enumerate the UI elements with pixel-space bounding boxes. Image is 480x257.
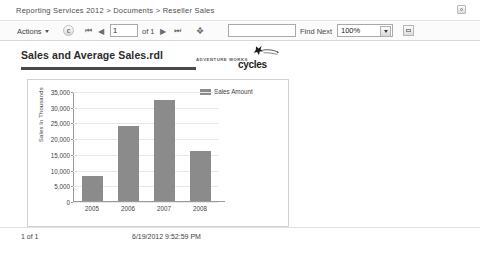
breadcrumb-bar: Reporting Services 2012 > Documents > Re… (0, 0, 480, 20)
y-tick-label: 10,000 (51, 167, 70, 174)
chevron-down-icon[interactable] (380, 26, 391, 37)
y-tick-mark (71, 108, 73, 109)
y-tick-label: 20,000 (51, 136, 70, 143)
previous-page-icon[interactable]: ◀ (97, 21, 105, 41)
y-tick-mark (71, 123, 73, 124)
footer-timestamp: 6/19/2012 9:52:59 PM (132, 233, 201, 240)
report-viewer-body: Sales and Average Sales.rdl ADVENTURE WO… (0, 41, 480, 257)
y-tick-label: 15,000 (51, 151, 70, 158)
adventure-works-logo: ADVENTURE WORKS cycles (196, 45, 286, 71)
find-next-button[interactable]: Find Next (300, 21, 332, 41)
y-tick-label: 0 (66, 199, 70, 206)
help-icon[interactable] (457, 5, 466, 14)
report-toolbar: Actions ⏮ ◀ of 1 ▶ ⏭ ❖ Find Next 100% (0, 20, 480, 41)
chart-x-tick-labels: 2005200620072008 (74, 205, 218, 212)
refresh-icon[interactable] (63, 25, 74, 36)
y-tick-mark (71, 155, 73, 156)
y-tick-label: 30,000 (51, 104, 70, 111)
export-icon[interactable]: ❖ (195, 21, 205, 41)
chevron-down-icon (45, 30, 49, 33)
x-tick-label: 2006 (110, 205, 146, 212)
next-page-icon[interactable]: ▶ (159, 21, 167, 41)
y-tick-label: 25,000 (51, 120, 70, 127)
zoom-select[interactable]: 100% (337, 24, 393, 37)
logo-brand-main: cycles (238, 59, 267, 70)
sales-chart-panel: Sales In Thousands Sales Amount 05,00010… (27, 79, 289, 227)
page-title: Sales and Average Sales.rdl (21, 49, 163, 61)
actions-menu-label: Actions (17, 27, 42, 36)
cyclist-logo-icon (242, 44, 282, 60)
page-count-label: of 1 (142, 21, 155, 41)
x-tick-label: 2007 (146, 205, 182, 212)
find-input[interactable] (228, 24, 296, 37)
zoom-value: 100% (341, 26, 360, 35)
bar-slot (110, 92, 146, 201)
chart-bars (74, 92, 218, 201)
y-tick-mark (71, 139, 73, 140)
legend-label: Sales Amount (214, 88, 253, 95)
y-tick-mark (71, 186, 73, 187)
y-tick-mark (71, 92, 73, 93)
footer-divider (0, 227, 480, 228)
breadcrumb[interactable]: Reporting Services 2012 > Documents > Re… (16, 6, 215, 15)
bar-slot (146, 92, 182, 201)
actions-menu-button[interactable]: Actions (17, 21, 49, 41)
print-icon[interactable] (403, 25, 414, 36)
title-divider (21, 67, 196, 70)
y-tick-label: 5,000 (54, 183, 70, 190)
chart-bar[interactable] (190, 151, 211, 201)
y-tick-label: 35,000 (51, 89, 70, 96)
footer-page-indicator: 1 of 1 (21, 233, 39, 240)
chart-bar[interactable] (82, 176, 103, 201)
y-tick-mark (71, 202, 73, 203)
chart-plot-area: 05,00010,00015,00020,00025,00030,00035,0… (73, 92, 218, 202)
last-page-icon[interactable]: ⏭ (172, 21, 182, 41)
chart-bar[interactable] (118, 126, 139, 201)
bar-slot (182, 92, 218, 201)
first-page-icon[interactable]: ⏮ (83, 21, 93, 41)
chart-bar[interactable] (154, 100, 175, 201)
chart-y-axis-label: Sales In Thousands (38, 87, 44, 142)
bar-slot (74, 92, 110, 201)
y-tick-mark (71, 171, 73, 172)
x-tick-label: 2008 (182, 205, 218, 212)
gridline (73, 202, 218, 203)
x-tick-label: 2005 (74, 205, 110, 212)
page-number-input[interactable] (110, 24, 138, 37)
